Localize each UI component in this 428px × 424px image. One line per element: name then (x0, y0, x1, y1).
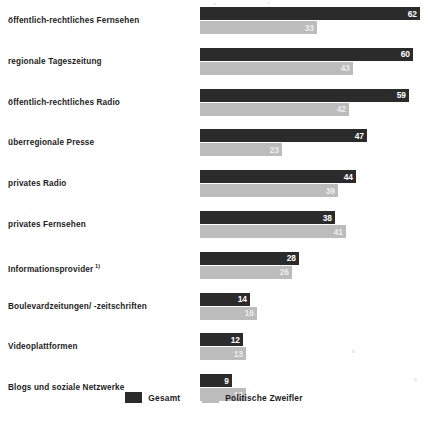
bar-value-label: 62 (408, 9, 417, 18)
bar-politische-zweifler: 26 (200, 266, 292, 279)
bar-gesamt: 14 (200, 293, 250, 306)
bar-politische-zweifler: 33 (200, 21, 317, 34)
bar-row-label: überregionale Presse (8, 138, 194, 148)
bar-politische-zweifler: 39 (200, 184, 338, 197)
bar-gesamt: 59 (200, 89, 409, 102)
bar-value-label: 43 (341, 64, 350, 73)
scan-artifact (268, 2, 270, 4)
bar-group: 1416 (200, 292, 428, 326)
bar-politische-zweifler: 23 (200, 143, 282, 156)
bar-row-label: Videoplattformen (8, 342, 194, 352)
bar-row: privates Radio4439 (0, 169, 428, 203)
bar-value-label: 16 (245, 309, 254, 318)
legend-swatch-total-icon (125, 392, 142, 403)
bar-gesamt: 38 (200, 211, 335, 224)
bar-value-label: 47 (355, 131, 364, 140)
bar-row: privates Fernsehen3841 (0, 210, 428, 244)
bar-row: Informationsprovider 1)2826 (0, 251, 428, 285)
footnote-marker: 1) (93, 263, 100, 269)
bar-value-label: 44 (344, 172, 353, 181)
bar-value-label: 41 (334, 227, 343, 236)
bar-group: 3841 (200, 210, 428, 244)
bar-chart: öffentlich-rechtliches Fernsehen6233regi… (0, 0, 428, 424)
bar-group: 4439 (200, 169, 428, 203)
bar-group: 1213 (200, 332, 428, 366)
bar-politische-zweifler: 16 (200, 307, 257, 320)
bar-row: Videoplattformen1213 (0, 332, 428, 366)
bar-value-label: 28 (287, 254, 296, 263)
bar-row-label: Boulevardzeitungen/ -zeitschriften (8, 302, 194, 312)
legend-item-gesamt: Gesamt (125, 392, 180, 403)
bar-gesamt: 47 (200, 129, 367, 142)
bar-gesamt: 60 (200, 48, 413, 61)
bar-value-label: 26 (280, 268, 289, 277)
bar-value-label: 14 (238, 295, 247, 304)
bar-politische-zweifler: 43 (200, 62, 353, 75)
bar-row: überregionale Presse4723 (0, 128, 428, 162)
bar-row-label: privates Radio (8, 179, 194, 189)
bar-row: Boulevardzeitungen/ -zeitschriften1416 (0, 292, 428, 326)
bar-group: 4723 (200, 128, 428, 162)
bar-row-label: öffentlich-rechtliches Fernsehen (8, 16, 194, 26)
bar-group: 2826 (200, 251, 428, 285)
bar-value-label: 12 (231, 335, 240, 344)
bar-value-label: 39 (326, 186, 335, 195)
scan-artifact (214, 3, 216, 5)
bar-row-label: öffentlich-rechtliches Radio (8, 98, 194, 108)
bar-gesamt: 62 (200, 7, 420, 20)
bar-group: 6233 (200, 6, 428, 40)
bar-value-label: 42 (337, 105, 346, 114)
bar-gesamt: 44 (200, 170, 356, 183)
bar-gesamt: 9 (200, 374, 232, 387)
bar-gesamt: 12 (200, 333, 243, 346)
chart-legend: Gesamt Politische Zweifler (0, 392, 428, 403)
bar-politische-zweifler: 42 (200, 103, 349, 116)
legend-item-politische-zweifler: Politische Zweifler (202, 392, 302, 403)
legend-swatch-doubt-icon (202, 392, 219, 403)
bar-row: regionale Tageszeitung6043 (0, 47, 428, 81)
bar-politische-zweifler: 13 (200, 347, 246, 360)
bar-row: öffentlich-rechtliches Fernsehen6233 (0, 6, 428, 40)
bar-row-label: regionale Tageszeitung (8, 57, 194, 67)
legend-label-gesamt: Gesamt (148, 393, 180, 403)
bar-value-label: 23 (270, 145, 279, 154)
bar-gesamt: 28 (200, 252, 299, 265)
bar-row-label: privates Fernsehen (8, 220, 194, 230)
bar-value-label: 9 (224, 376, 229, 385)
bar-value-label: 59 (397, 91, 406, 100)
bar-group: 5942 (200, 88, 428, 122)
bar-row-label: Informationsprovider 1) (8, 261, 194, 275)
legend-label-politische-zweifler: Politische Zweifler (225, 393, 302, 403)
bar-group: 6043 (200, 47, 428, 81)
bar-value-label: 60 (401, 50, 410, 59)
bar-value-label: 38 (323, 213, 332, 222)
bar-politische-zweifler: 41 (200, 225, 346, 238)
bar-value-label: 33 (305, 23, 314, 32)
bar-row: öffentlich-rechtliches Radio5942 (0, 88, 428, 122)
bar-value-label: 13 (234, 349, 243, 358)
